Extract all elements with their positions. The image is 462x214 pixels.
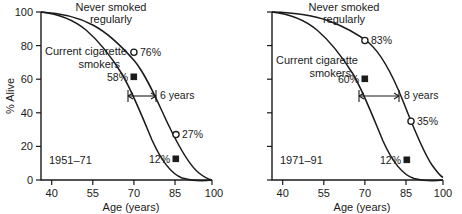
label-never-smoked-line1: Never smoked — [309, 1, 380, 13]
x-axis-title: Age (years) — [334, 201, 391, 213]
chart-panel-1951-71: 0 20 40 60 80 100 % Alive 40 55 70 — [0, 0, 231, 214]
point-label-never-85: 35% — [417, 115, 438, 127]
left-chart-svg: 0 20 40 60 80 100 % Alive 40 55 70 — [0, 0, 231, 214]
chart-panel-1971-91: 40 55 70 85 100 Age (years) 8 years — [231, 0, 462, 214]
gap-label: 8 years — [404, 89, 438, 101]
x-axis-tick-labels: 40 55 70 85 100 — [46, 187, 224, 199]
label-smokers-line2: smokers — [78, 58, 120, 70]
point-label-smoker-85: 12% — [380, 154, 401, 166]
label-smokers-line1: Current cigarette — [45, 45, 127, 57]
point-marker-never-85 — [173, 132, 179, 138]
y-axis-tick-labels: 0 20 40 60 80 100 — [15, 6, 33, 186]
x-axis-ticks — [283, 180, 443, 185]
point-marker-never-70 — [362, 37, 368, 43]
x-tick-85: 85 — [169, 187, 181, 199]
point-label-never-85: 27% — [182, 128, 203, 140]
period-label: 1971–91 — [280, 154, 323, 166]
x-axis-tick-labels: 40 55 70 85 100 — [277, 187, 453, 199]
label-never-smoked-line2: regularly — [90, 13, 133, 25]
x-tick-55: 55 — [318, 187, 330, 199]
y-axis-ticks — [267, 12, 272, 180]
x-tick-55: 55 — [87, 187, 99, 199]
x-tick-100: 100 — [434, 187, 452, 199]
y-tick-20: 20 — [21, 140, 33, 152]
gap-arrow — [128, 90, 156, 102]
point-marker-never-70 — [131, 49, 137, 55]
y-tick-100: 100 — [15, 6, 33, 18]
x-tick-70: 70 — [359, 187, 371, 199]
point-label-smoker-85: 12% — [149, 153, 170, 165]
x-tick-85: 85 — [400, 187, 412, 199]
point-marker-never-85 — [408, 118, 414, 124]
label-never-smoked-line2: regularly — [323, 13, 366, 25]
y-tick-60: 60 — [21, 73, 33, 85]
x-axis-title: Age (years) — [103, 201, 160, 213]
x-tick-100: 100 — [205, 187, 223, 199]
point-label-never-70: 83% — [371, 34, 392, 46]
y-axis-ticks — [36, 12, 41, 180]
point-marker-smoker-85 — [173, 156, 179, 162]
survival-curves-figure: 0 20 40 60 80 100 % Alive 40 55 70 — [0, 0, 462, 214]
right-chart-svg: 40 55 70 85 100 Age (years) 8 years — [231, 0, 462, 214]
label-smokers-line1: Current cigarette — [276, 54, 358, 66]
gap-label: 6 years — [160, 89, 194, 101]
x-tick-40: 40 — [46, 187, 58, 199]
point-marker-smoker-70 — [131, 74, 137, 80]
y-tick-40: 40 — [21, 107, 33, 119]
point-label-never-70: 76% — [140, 46, 161, 58]
label-never-smoked-line1: Never smoked — [76, 1, 147, 13]
label-smokers-line2: smokers — [309, 67, 351, 79]
y-tick-80: 80 — [21, 40, 33, 52]
point-marker-smoker-70 — [362, 76, 368, 82]
period-label: 1951–71 — [49, 154, 92, 166]
point-label-smoker-70: 58% — [107, 71, 128, 83]
y-axis-title: % Alive — [4, 78, 16, 114]
x-axis-ticks — [52, 180, 212, 185]
x-tick-40: 40 — [277, 187, 289, 199]
point-marker-smoker-85 — [404, 157, 410, 163]
x-tick-70: 70 — [128, 187, 140, 199]
y-tick-0: 0 — [27, 174, 33, 186]
gap-arrow — [359, 90, 399, 102]
